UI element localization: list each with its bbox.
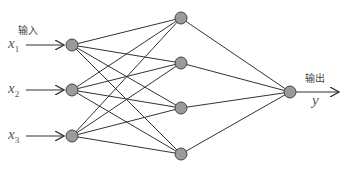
output-label: 输出 <box>305 70 325 85</box>
neural-network-diagram <box>0 0 350 172</box>
input-label: 输入 <box>18 22 38 37</box>
neuron-nodes <box>66 12 296 160</box>
input-var-x1: x1 <box>8 35 19 54</box>
output-var-y: y <box>312 92 319 109</box>
edge-hidden1-output <box>181 18 290 92</box>
edge-hidden2-output <box>181 63 290 92</box>
hidden-node-3 <box>175 102 187 114</box>
edge-hidden3-output <box>181 92 290 108</box>
input-node-3 <box>66 130 78 142</box>
input-var-x2: x2 <box>8 80 19 99</box>
connection-edges <box>72 18 290 154</box>
edge-input3-hidden4 <box>72 136 181 154</box>
hidden-node-4 <box>175 148 187 160</box>
hidden-node-2 <box>175 57 187 69</box>
edge-input3-hidden1 <box>72 18 181 136</box>
output-node <box>284 86 296 98</box>
input-node-2 <box>66 84 78 96</box>
edge-hidden4-output <box>181 92 290 154</box>
edge-input3-hidden3 <box>72 108 181 136</box>
hidden-node-1 <box>175 12 187 24</box>
edge-input1-hidden1 <box>72 18 181 45</box>
input-node-1 <box>66 39 78 51</box>
input-var-x3: x3 <box>8 126 19 145</box>
